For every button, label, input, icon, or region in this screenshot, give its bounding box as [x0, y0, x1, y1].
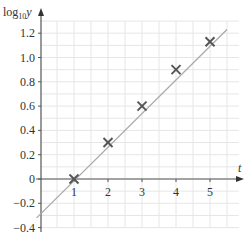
x-tick-label: 5 — [207, 185, 213, 199]
x-axis-label: t — [238, 161, 242, 175]
x-tick-label: 4 — [173, 185, 179, 199]
x-tick-label: 1 — [71, 185, 77, 199]
x-axis-arrow-icon — [236, 176, 244, 182]
y-tick-label: 0.2 — [20, 148, 35, 162]
y-tick-label: −0.2 — [13, 196, 35, 210]
y-tick-label: 0.6 — [20, 99, 35, 113]
y-tick-label: 1.2 — [20, 26, 35, 40]
y-tick-label: 0 — [29, 172, 35, 186]
y-tick-label: 1.0 — [20, 51, 35, 65]
y-tick-label: −0.4 — [13, 221, 35, 235]
y-axis-arrow-icon — [38, 8, 44, 16]
y-axis-label: log10y — [3, 5, 32, 21]
y-tick-label: 0.8 — [20, 75, 35, 89]
x-tick-label: 3 — [139, 185, 145, 199]
x-tick-label: 2 — [105, 185, 111, 199]
y-tick-label: 0.4 — [20, 123, 35, 137]
chart: 12345−0.4−0.200.20.40.60.81.01.2 log10y … — [0, 0, 252, 238]
